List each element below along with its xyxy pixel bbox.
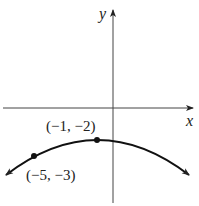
x-axis-label: x: [185, 112, 193, 129]
parabola-curve-right: [98, 140, 190, 175]
parabola-graph: x y (−1, −2) (−5, −3): [0, 0, 199, 206]
y-axis-label: y: [97, 5, 107, 23]
vertex-label: (−1, −2): [46, 118, 95, 135]
point-label: (−5, −3): [26, 167, 75, 184]
vertex-point: [94, 137, 100, 143]
point-neg5-neg3: [31, 153, 37, 159]
